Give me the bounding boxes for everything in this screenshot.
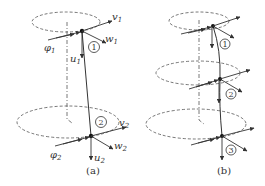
rotation-ellipse-3 [146,109,246,139]
axis-line [67,22,72,123]
node-2-number: 2 [98,118,103,127]
panel-a-caption: (a) [86,165,100,176]
beam-element-diagram: 1 v1 w1 u1 φ1 2 v2 w2 u2 φ2 (a) [0,0,265,186]
v2-arrow [91,127,126,136]
panel-b: 1 2 3 (b) [146,12,254,176]
rotation-ellipse-2 [156,61,240,85]
panel-a: 1 v1 w1 u1 φ1 2 v2 w2 u2 φ2 (a) [17,11,130,176]
node-1-v-arrow [213,17,240,26]
node-1-phi-arrow [181,27,211,34]
u1-label: u1 [70,53,81,66]
phi2-arrow-double [63,139,82,144]
u2-label: u2 [94,152,105,165]
v1-label: v1 [112,11,122,24]
axis-line [199,20,204,124]
phi1-label: φ1 [44,42,55,55]
node-2-phi-arrow-double [196,82,212,87]
phi2-label: φ2 [50,149,62,162]
w1-label: w1 [105,33,118,46]
phi1-arrow-double [56,34,74,38]
node-3-phi-arrow-double [198,139,214,143]
panel-b-caption: (b) [217,165,231,176]
node-2-v-arrow [220,70,250,79]
w2-label: w2 [114,140,128,153]
node-3-number: 3 [228,146,233,155]
node-1-number: 1 [222,40,227,49]
node-2-number: 2 [228,90,233,99]
v1-arrow [82,21,112,31]
rotation-ellipse-top [32,12,100,32]
node-3-v-arrow [222,128,254,136]
w2-arrow [91,136,113,149]
node-1-number: 1 [91,43,96,52]
